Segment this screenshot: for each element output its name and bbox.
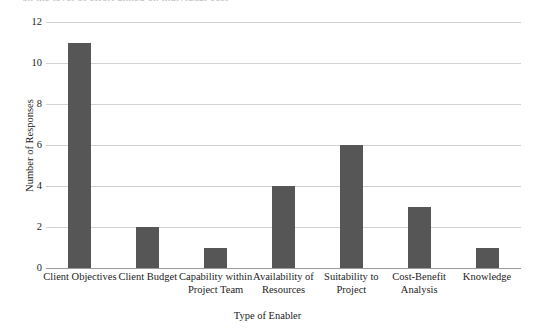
gridline	[46, 145, 521, 146]
bar	[340, 145, 363, 268]
gridline	[46, 63, 521, 64]
gridline	[46, 22, 521, 23]
axis-baseline	[46, 268, 521, 269]
bar	[476, 248, 499, 269]
x-axis-title-text: Type of Enabler	[234, 310, 302, 321]
y-axis-tick-labels: 024681012	[0, 22, 42, 268]
x-axis-title: Type of Enabler	[0, 310, 537, 321]
bar	[204, 248, 227, 269]
plot-area	[46, 22, 521, 268]
x-tick-label-line: Knowledge	[447, 271, 527, 284]
x-tick-label: Knowledge	[447, 271, 527, 284]
bar	[272, 186, 295, 268]
y-tick-label: 8	[2, 99, 42, 110]
y-tick-label: 4	[2, 181, 42, 192]
y-axis-title: Number of Responses	[24, 66, 35, 226]
y-tick-label: 2	[2, 222, 42, 233]
bar-chart-figure: 024681012 Number of Responses Client Obj…	[0, 0, 537, 333]
y-tick-label: 10	[2, 58, 42, 69]
y-tick-label: 6	[2, 140, 42, 151]
bar	[68, 43, 91, 269]
bar	[408, 207, 431, 269]
bar	[136, 227, 159, 268]
gridline	[46, 104, 521, 105]
y-tick-label: 12	[2, 17, 42, 28]
x-axis-tick-labels: Client ObjectivesClient BudgetCapability…	[46, 271, 521, 307]
y-tick-label: 0	[2, 263, 42, 274]
x-tick-label-line: Analysis	[379, 284, 459, 297]
